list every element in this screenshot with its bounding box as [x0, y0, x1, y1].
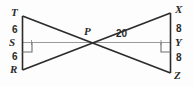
vertex-label-Z: Z	[174, 70, 181, 81]
measure-label-TS: 6	[12, 25, 18, 35]
vertex-label-S: S	[9, 37, 15, 48]
vertex-label-Y: Y	[175, 37, 182, 48]
geometry-figure: T S R P X Y Z 6 6 8 8 20	[0, 0, 194, 87]
measure-label-SR: 6	[12, 52, 18, 62]
measure-label-PY: 20	[116, 29, 127, 39]
segment-R-X	[23, 13, 171, 70]
right-angle-marker-Y	[161, 43, 171, 53]
vertex-label-X: X	[175, 4, 182, 15]
measure-label-YZ: 8	[176, 53, 182, 63]
segment-T-Z	[23, 16, 171, 73]
right-angle-marker-S	[23, 43, 33, 53]
geometry-diagram	[0, 0, 194, 87]
vertex-label-P: P	[84, 26, 91, 37]
vertex-label-R: R	[10, 64, 17, 75]
measure-label-XY: 8	[176, 24, 182, 34]
vertex-label-T: T	[11, 7, 18, 18]
